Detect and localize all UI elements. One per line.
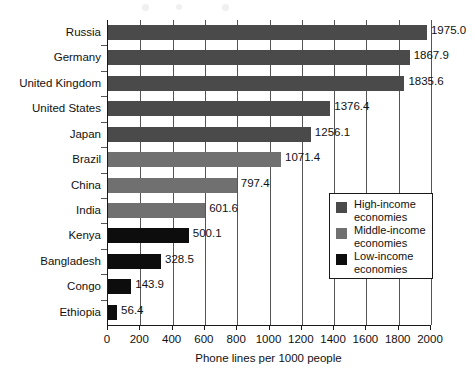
x-axis-tick-label: 1800 <box>385 332 411 346</box>
x-axis-tick-labels: 0200400600800100012001400160018002000 <box>0 332 475 348</box>
bar-value-label: 1867.9 <box>414 48 449 63</box>
x-axis-tick-label: 600 <box>194 332 213 346</box>
bar <box>108 50 410 65</box>
bar <box>108 178 237 193</box>
bar-row: 1867.9 <box>108 45 431 70</box>
y-axis-label-india: India <box>0 198 101 223</box>
bar <box>108 279 131 294</box>
legend-label-high: High-income economies <box>354 198 416 223</box>
legend-item-middle: Middle-income economies <box>336 225 432 251</box>
y-axis-label-japan: Japan <box>0 122 101 147</box>
legend-label-middle: Middle-income economies <box>354 224 426 249</box>
x-axis-tick-label: 1200 <box>288 332 314 346</box>
bar-value-label: 500.1 <box>193 226 222 241</box>
bar-value-label: 56.4 <box>121 303 143 318</box>
y-axis-label-kenya: Kenya <box>0 223 101 248</box>
bar <box>108 228 189 243</box>
bar-value-label: 1835.6 <box>408 74 443 89</box>
bar-value-label: 143.9 <box>135 277 164 292</box>
y-axis-label-russia: Russia <box>0 20 101 45</box>
scan-artifact <box>222 4 229 11</box>
bar-chart-figure: RussiaGermanyUnited KingdomUnited States… <box>0 0 475 382</box>
bar-row: 56.4 <box>108 300 431 325</box>
y-axis-label-congo: Congo <box>0 274 101 299</box>
bar-row: 1256.1 <box>108 122 431 147</box>
y-axis-label-united-states: United States <box>0 96 101 121</box>
bar-value-label: 601.6 <box>209 201 238 216</box>
x-axis-tick-label: 800 <box>227 332 246 346</box>
gridline <box>431 20 432 325</box>
x-axis-tick-label: 1000 <box>256 332 282 346</box>
x-axis-tick <box>365 325 366 330</box>
bar-value-label: 1975.0 <box>431 23 466 38</box>
legend-item-low: Low-income economies <box>336 251 432 277</box>
bar <box>108 254 161 269</box>
x-axis-tick <box>236 325 237 330</box>
legend-item-high: High-income economies <box>336 199 432 225</box>
bar-value-label: 1071.4 <box>285 150 320 165</box>
x-axis-tick-label: 1400 <box>320 332 346 346</box>
bar-value-label: 1376.4 <box>334 99 369 114</box>
x-axis-tick <box>107 325 108 330</box>
legend-swatch-low <box>336 254 347 265</box>
bar <box>108 127 311 142</box>
bar-row: 1835.6 <box>108 71 431 96</box>
x-axis-tick-label: 1600 <box>353 332 379 346</box>
bar <box>108 152 281 167</box>
x-axis-tick <box>139 325 140 330</box>
bar <box>108 203 205 218</box>
x-axis-tick <box>430 325 431 330</box>
bar <box>108 101 330 116</box>
legend-swatch-high <box>336 202 347 213</box>
y-axis-label-united-kingdom: United Kingdom <box>0 71 101 96</box>
plot-area: 1975.01867.91835.61376.41256.11071.4797.… <box>107 20 431 326</box>
bar-rows: 1975.01867.91835.61376.41256.11071.4797.… <box>108 20 431 325</box>
x-axis-tick <box>333 325 334 330</box>
bar <box>108 76 404 91</box>
scan-artifact <box>176 4 182 10</box>
y-axis-label-bangladesh: Bangladesh <box>0 249 101 274</box>
bar <box>108 25 427 40</box>
bar-row: 1071.4 <box>108 147 431 172</box>
x-axis-tick <box>301 325 302 330</box>
legend-swatch-middle <box>336 228 347 239</box>
legend-label-low: Low-income economies <box>354 250 413 275</box>
y-axis-label-germany: Germany <box>0 45 101 70</box>
x-axis-ticks <box>107 325 430 331</box>
bar-row: 1376.4 <box>108 96 431 121</box>
legend: High-income economiesMiddle-income econo… <box>329 193 433 279</box>
bar-value-label: 328.5 <box>165 252 194 267</box>
x-axis-title: Phone lines per 1000 people <box>107 352 430 364</box>
x-axis-tick <box>172 325 173 330</box>
x-axis-tick <box>269 325 270 330</box>
bar-value-label: 1256.1 <box>315 125 350 140</box>
x-axis-tick-label: 400 <box>162 332 181 346</box>
y-axis-label-china: China <box>0 173 101 198</box>
x-axis-tick <box>398 325 399 330</box>
x-axis-tick-label: 0 <box>104 332 110 346</box>
bar <box>108 305 117 320</box>
scan-artifact <box>142 4 149 11</box>
bar-row: 1975.0 <box>108 20 431 45</box>
y-axis-category-labels: RussiaGermanyUnited KingdomUnited States… <box>0 20 101 325</box>
bar-value-label: 797.4 <box>241 176 270 191</box>
y-axis-label-ethiopia: Ethiopia <box>0 300 101 325</box>
x-axis-tick-label: 200 <box>130 332 149 346</box>
y-axis-label-brazil: Brazil <box>0 147 101 172</box>
x-axis-tick <box>204 325 205 330</box>
x-axis-tick-label: 2000 <box>417 332 443 346</box>
